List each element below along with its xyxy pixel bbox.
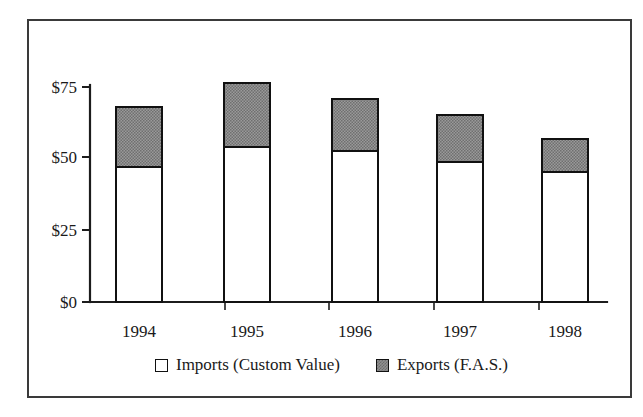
plot-area: $75 $50 $25 $0 1994 1995 1996 1997 1998 <box>29 21 634 400</box>
y-tick-label-0: $0 <box>60 293 77 312</box>
x-tick-label-1997: 1997 <box>443 322 478 341</box>
legend-item-imports: Imports (Custom Value) <box>155 355 340 375</box>
chart-legend: Imports (Custom Value) Exports (F.A.S.) <box>29 355 634 375</box>
bar-imports-1996 <box>332 151 378 302</box>
legend-label-exports: Exports (F.A.S.) <box>397 355 508 375</box>
bar-exports-1995 <box>224 83 270 147</box>
x-tick-label-1994: 1994 <box>122 322 157 341</box>
legend-label-imports: Imports (Custom Value) <box>176 355 340 375</box>
x-tick-label-1995: 1995 <box>230 322 264 341</box>
y-tick-label-75: $75 <box>52 78 78 97</box>
legend-item-exports: Exports (F.A.S.) <box>376 355 508 375</box>
bar-exports-1994 <box>116 107 162 167</box>
bar-imports-1997 <box>437 162 483 302</box>
bar-imports-1998 <box>542 172 588 302</box>
stacked-bar-chart: $75 $50 $25 $0 1994 1995 1996 1997 1998 <box>29 21 634 400</box>
bar-exports-1997 <box>437 115 483 162</box>
x-tick-label-1998: 1998 <box>548 322 582 341</box>
legend-swatch-exports-icon <box>376 359 389 372</box>
x-tick-label-1996: 1996 <box>338 322 372 341</box>
legend-swatch-imports-icon <box>155 359 168 372</box>
chart-figure-frame: $75 $50 $25 $0 1994 1995 1996 1997 1998 … <box>27 19 632 398</box>
bar-exports-1996 <box>332 99 378 151</box>
bar-exports-1998 <box>542 139 588 172</box>
y-tick-label-25: $25 <box>52 221 78 240</box>
y-tick-label-50: $50 <box>52 148 78 167</box>
bar-imports-1995 <box>224 147 270 302</box>
bar-imports-1994 <box>116 167 162 302</box>
